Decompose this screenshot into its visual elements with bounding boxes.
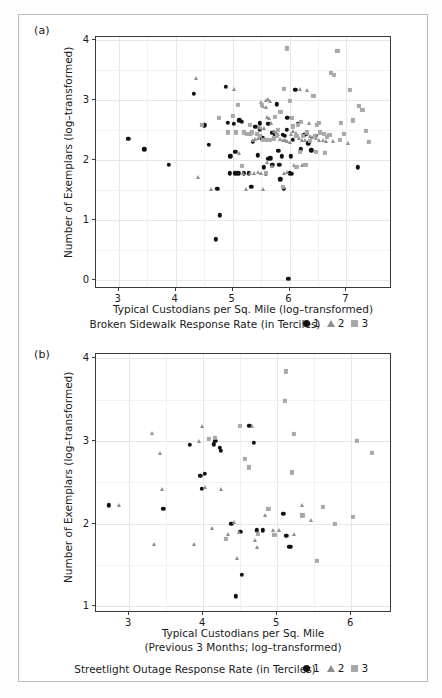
panel-b-legend: 1 2 3 <box>303 662 368 674</box>
data-point-tercile-3 <box>234 130 238 134</box>
legend-entry-tercile-2: 2 <box>327 317 345 329</box>
data-point-tercile-2 <box>197 439 201 443</box>
data-point-tercile-1 <box>232 122 236 126</box>
data-point-tercile-2 <box>346 141 350 145</box>
data-point-tercile-3 <box>226 130 230 134</box>
panel-b-legend-title: Streetlight Outage Response Rate (in Ter… <box>74 663 315 675</box>
data-point-tercile-1 <box>240 573 244 577</box>
y-tick-mark <box>92 440 95 441</box>
data-point-tercile-1 <box>167 163 171 167</box>
data-point-tercile-2 <box>248 171 252 175</box>
data-point-tercile-3 <box>200 123 204 127</box>
data-point-tercile-2 <box>203 485 207 489</box>
panel-b-y-axis-title: Number of Exemplars (log–transformed) <box>62 372 74 583</box>
data-point-tercile-1 <box>188 443 192 447</box>
data-point-tercile-2 <box>237 530 241 534</box>
data-point-tercile-3 <box>250 130 254 134</box>
data-point-tercile-3 <box>312 134 316 138</box>
data-point-tercile-3 <box>217 116 221 120</box>
data-point-tercile-3 <box>303 163 307 167</box>
data-point-tercile-3 <box>308 139 312 143</box>
data-point-tercile-1 <box>234 594 238 598</box>
data-point-tercile-2 <box>303 138 307 142</box>
legend-label-1: 1 <box>313 662 320 674</box>
data-point-tercile-3 <box>360 108 364 112</box>
data-point-tercile-1 <box>278 177 282 181</box>
panel-b-x-axis-title-line1: Typical Custodians per Sq. Mile <box>162 627 325 639</box>
data-point-tercile-1 <box>356 165 360 169</box>
gridline-horizontal <box>96 100 390 101</box>
data-point-tercile-1 <box>275 102 279 106</box>
gridline-horizontal-minor <box>96 565 390 566</box>
legend-entry-tercile-1: 1 <box>303 317 320 329</box>
data-point-tercile-1 <box>284 534 288 538</box>
data-point-tercile-3 <box>264 171 268 175</box>
x-tick-mark <box>175 288 176 291</box>
panel-a-y-axis-title: Number of Exemplars (log–transformed) <box>62 47 74 258</box>
data-point-tercile-1 <box>106 503 110 507</box>
x-tick-label: 3 <box>125 617 131 628</box>
x-tick-mark <box>345 288 346 291</box>
data-point-tercile-2 <box>117 503 121 507</box>
data-point-tercile-1 <box>207 143 211 147</box>
panel-a-legend-title: Broken Sidewalk Response Rate (in Tercil… <box>90 318 321 330</box>
x-tick-mark <box>289 288 290 291</box>
data-point-tercile-2 <box>263 513 267 517</box>
data-point-tercile-2 <box>210 526 214 530</box>
legend-label-3: 3 <box>361 662 368 674</box>
data-point-tercile-3 <box>314 150 318 154</box>
data-point-tercile-3 <box>247 465 251 469</box>
legend-entry-tercile-1: 1 <box>303 662 320 674</box>
gridline-horizontal-minor <box>96 70 390 71</box>
data-point-tercile-2 <box>265 160 269 164</box>
data-point-tercile-3 <box>207 437 211 441</box>
data-point-tercile-3 <box>332 73 336 77</box>
gridline-horizontal <box>96 358 390 359</box>
panel-a-legend: 1 2 3 <box>303 317 368 329</box>
data-point-tercile-3 <box>278 110 282 114</box>
data-point-tercile-1 <box>213 237 217 241</box>
data-point-tercile-2 <box>300 503 304 507</box>
legend-entry-tercile-2: 2 <box>327 662 345 674</box>
data-point-tercile-3 <box>294 165 298 169</box>
data-point-tercile-1 <box>126 137 130 141</box>
data-point-tercile-2 <box>270 164 274 168</box>
data-point-tercile-3 <box>282 87 286 91</box>
gridline-horizontal <box>96 524 390 525</box>
data-point-tercile-2 <box>292 532 296 536</box>
data-point-tercile-3 <box>315 559 319 563</box>
gridline-horizontal-minor <box>96 250 390 251</box>
y-tick-mark <box>92 39 95 40</box>
triangle-marker-icon <box>327 665 335 672</box>
data-point-tercile-3 <box>240 164 244 168</box>
data-point-tercile-3 <box>281 185 285 189</box>
data-point-tercile-3 <box>333 522 337 526</box>
x-tick-mark <box>276 612 277 615</box>
data-point-tercile-3 <box>273 115 277 119</box>
y-tick-mark <box>92 159 95 160</box>
x-tick-mark <box>232 288 233 291</box>
legend-label-3: 3 <box>361 317 368 329</box>
data-point-tercile-1 <box>236 171 240 175</box>
x-tick-label: 6 <box>347 617 353 628</box>
gridline-horizontal <box>96 280 390 281</box>
panel-a: (a) Number of Exemplars (log–transformed… <box>0 0 442 335</box>
data-point-tercile-1 <box>240 119 244 123</box>
panel-b-label: (b) <box>34 348 50 361</box>
data-point-tercile-1 <box>276 149 280 153</box>
y-tick-label: 4 <box>75 34 89 45</box>
panel-a-x-axis-title: Typical Custodians per Sq. Mile (log–tra… <box>113 303 373 315</box>
y-tick-label: 4 <box>75 352 89 363</box>
data-point-tercile-1 <box>277 163 281 167</box>
data-point-tercile-3 <box>213 435 217 439</box>
data-point-tercile-3 <box>276 128 280 132</box>
panel-b-x-axis-title-line2: (Previous 3 Months; log–transformed) <box>144 641 341 653</box>
legend-label-2: 2 <box>338 317 345 329</box>
data-point-tercile-1 <box>288 545 292 549</box>
data-point-tercile-3 <box>338 138 342 142</box>
data-point-tercile-1 <box>192 92 196 96</box>
data-point-tercile-3 <box>287 99 291 103</box>
data-point-tercile-2 <box>305 88 309 92</box>
data-point-tercile-1 <box>281 511 285 515</box>
legend-label-2: 2 <box>338 662 345 674</box>
